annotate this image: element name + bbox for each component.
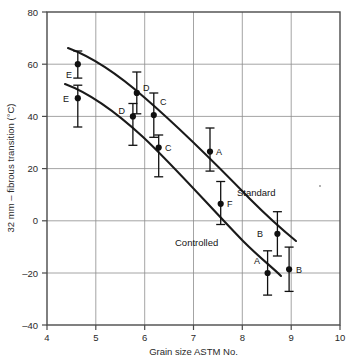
x-tick-labels: 4 5 6 7 8 9 10 (44, 332, 345, 343)
y-tick-label: –20 (22, 268, 38, 279)
point-label: C (165, 143, 172, 153)
x-tick-marks (47, 325, 340, 330)
y-tick-label: 0 (33, 215, 38, 226)
point-label: A (254, 256, 260, 266)
y-tick-label: 60 (27, 59, 38, 70)
x-tick-label: 4 (44, 332, 49, 343)
chart-figure: 80 60 40 20 0 –20 –40 4 5 6 7 8 9 10 Gra… (0, 0, 364, 359)
point-label: D (119, 106, 126, 116)
point-label: F (227, 199, 233, 209)
y-tick-label: –40 (22, 320, 38, 331)
x-tick-label: 8 (240, 332, 245, 343)
annotation-controlled: Controlled (175, 237, 218, 248)
point-label: C (160, 97, 167, 107)
point-label: E (63, 94, 69, 104)
point-label: B (296, 265, 302, 275)
x-tick-label: 7 (191, 332, 196, 343)
y-tick-label: 20 (27, 163, 38, 174)
point-label: A (216, 147, 222, 157)
y-tick-labels: 80 60 40 20 0 –20 –40 (22, 7, 38, 331)
stray-mark (319, 185, 321, 187)
y-axis-title: 32 mm – fibrous transition (°C) (5, 104, 16, 233)
x-tick-label: 6 (142, 332, 147, 343)
chart-svg: 80 60 40 20 0 –20 –40 4 5 6 7 8 9 10 Gra… (0, 0, 364, 359)
x-tick-label: 5 (93, 332, 98, 343)
point-label: E (66, 70, 72, 80)
y-tick-marks (42, 12, 47, 325)
point-label: D (143, 83, 150, 93)
point-label: B (257, 229, 263, 239)
x-tick-label: 10 (335, 332, 346, 343)
y-tick-label: 80 (27, 7, 38, 18)
x-tick-label: 9 (289, 332, 294, 343)
x-axis-title: Grain size ASTM No. (149, 346, 238, 357)
y-tick-label: 40 (27, 111, 38, 122)
annotation-standard: Standard (237, 187, 276, 198)
